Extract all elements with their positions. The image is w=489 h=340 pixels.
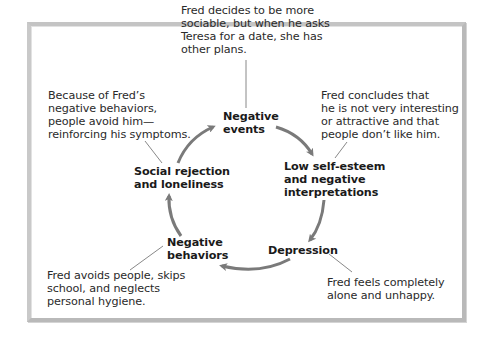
- annotation-line: Teresa for a date, she has: [181, 30, 330, 43]
- node-label-line: and loneliness: [134, 178, 230, 191]
- annotation-line: Fred concludes that: [321, 89, 459, 102]
- annotation-depression: Fred feels completely alone and unhappy.: [327, 276, 445, 302]
- annotation-line: Fred avoids people, skips: [47, 269, 185, 282]
- node-depression: Depression: [268, 244, 338, 257]
- annotation-line: Fred decides to be more: [181, 4, 330, 17]
- annotation-line: reinforcing his symptoms.: [48, 128, 191, 141]
- annotation-line: or attractive and that: [321, 115, 459, 128]
- node-label-line: Depression: [268, 244, 338, 257]
- annotation-line: school, and neglects: [47, 282, 185, 295]
- node-label-line: interpretations: [284, 186, 385, 199]
- annotation-line: people don’t like him.: [321, 128, 459, 141]
- node-label-line: Low self-esteem: [284, 160, 385, 173]
- annotation-low-self-esteem: Fred concludes that he is not very inter…: [321, 89, 459, 141]
- node-label-line: behaviors: [167, 249, 228, 262]
- annotation-line: negative behaviors,: [48, 102, 191, 115]
- annotation-line: sociable, but when he asks: [181, 17, 330, 30]
- node-label-line: Social rejection: [134, 165, 230, 178]
- annotation-line: Fred feels completely: [327, 276, 445, 289]
- annotation-line: alone and unhappy.: [327, 289, 445, 302]
- node-label-line: Negative: [167, 236, 228, 249]
- node-label-line: Negative: [223, 110, 279, 123]
- node-negative-behaviors: Negative behaviors: [167, 236, 228, 262]
- annotation-line: other plans.: [181, 43, 330, 56]
- annotation-social-rejection: Because of Fred’s negative behaviors, pe…: [48, 89, 191, 141]
- node-social-rejection: Social rejection and loneliness: [134, 165, 230, 191]
- node-negative-events: Negative events: [223, 110, 279, 136]
- annotation-line: personal hygiene.: [47, 295, 185, 308]
- annotation-line: Because of Fred’s: [48, 89, 191, 102]
- annotation-negative-behaviors: Fred avoids people, skips school, and ne…: [47, 269, 185, 308]
- node-label-line: and negative: [284, 173, 385, 186]
- annotation-line: people avoid him—: [48, 115, 191, 128]
- annotation-line: he is not very interesting: [321, 102, 459, 115]
- node-label-line: events: [223, 123, 279, 136]
- node-low-self-esteem: Low self-esteem and negative interpretat…: [284, 160, 385, 199]
- annotation-negative-events: Fred decides to be more sociable, but wh…: [181, 4, 330, 56]
